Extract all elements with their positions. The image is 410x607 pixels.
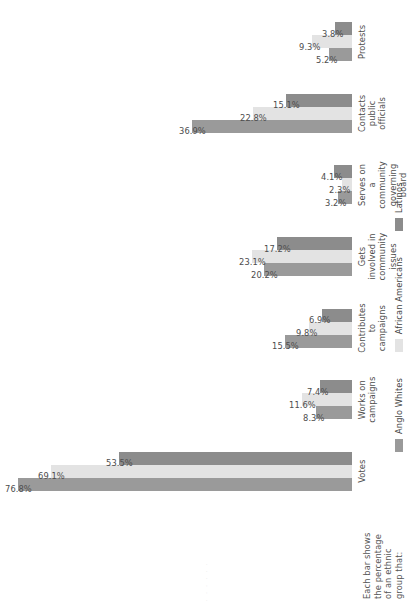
bar-value-label: 4.1%	[321, 172, 342, 182]
chart-caption: Each bar showsthe percentageof an ethnic…	[362, 533, 404, 599]
bar-value-label: 2.3%	[329, 185, 350, 195]
bar[interactable]	[192, 120, 353, 133]
bar[interactable]	[51, 465, 352, 478]
caption-line: group that:	[394, 533, 404, 599]
bar-group-bars: 76.8%69.1%53.5%	[4, 452, 352, 491]
legend-swatch-icon	[395, 339, 403, 352]
bar-wrapper: 4.1%	[4, 165, 352, 178]
bar-wrapper: 23.1%	[4, 250, 352, 263]
chart-figure: Each bar showsthe percentageof an ethnic…	[0, 0, 410, 607]
caption-line: of an ethnic	[383, 533, 393, 599]
bar-group-bars: 20.2%23.1%17.2%	[4, 237, 352, 276]
bar-value-label: 15.5%	[272, 341, 299, 351]
bar-value-label: 9.3%	[299, 42, 320, 52]
bar-wrapper: 53.5%	[4, 452, 352, 465]
bar-wrapper: 15.1%	[4, 94, 352, 107]
bar-group: 36.9%22.8%15.1%Contacts public officials	[4, 78, 352, 150]
bar-wrapper: 2.3%	[4, 178, 352, 191]
bar-value-label: 11.6%	[289, 400, 316, 410]
bar-wrapper: 3.2%	[4, 191, 352, 204]
plot-area: 76.8%69.1%53.5%Votes8.3%11.6%7.4%Works o…	[4, 6, 352, 507]
category-label: Contacts public officials	[357, 95, 388, 132]
bar-group: 15.5%9.8%6.9%Contributes to campaigns	[4, 292, 352, 364]
edge-artifact-text: . . . . . .	[202, 562, 208, 601]
category-label: Gets involved in community issues	[357, 233, 398, 281]
legend-swatch-icon	[395, 439, 403, 452]
bar-value-label: 69.1%	[38, 471, 65, 481]
category-label: Votes	[357, 460, 367, 483]
chart-frame: Each bar showsthe percentageof an ethnic…	[0, 0, 410, 607]
bar-value-label: 53.5%	[106, 458, 133, 468]
legend-label: Anglo Whites	[394, 378, 404, 434]
bar-group-bars: 15.5%9.8%6.9%	[4, 309, 352, 348]
bar-group-bars: 5.2%9.3%3.8%	[4, 22, 352, 61]
bar-group-bars: 8.3%11.6%7.4%	[4, 380, 352, 419]
bar-wrapper: 20.2%	[4, 263, 352, 276]
bar-value-label: 8.3%	[303, 413, 324, 423]
bar-group: 8.3%11.6%7.4%Works on campaigns	[4, 364, 352, 436]
bar[interactable]	[18, 478, 352, 491]
bar-value-label: 3.2%	[325, 198, 346, 208]
bar-value-label: 23.1%	[239, 257, 266, 267]
bar-value-label: 17.2%	[264, 244, 291, 254]
bar[interactable]	[119, 452, 352, 465]
bar-wrapper: 17.2%	[4, 237, 352, 250]
bar-wrapper: 3.8%	[4, 22, 352, 35]
bar-group-bars: 36.9%22.8%15.1%	[4, 94, 352, 133]
bar-value-label: 15.1%	[273, 100, 300, 110]
bar-value-label: 20.2%	[251, 270, 278, 280]
bar-group-bars: 3.2%2.3%4.1%	[4, 165, 352, 204]
bar-value-label: 22.8%	[240, 113, 267, 123]
bar-wrapper: 11.6%	[4, 393, 352, 406]
category-label: Contributes to campaigns	[357, 303, 388, 352]
caption-line: the percentage	[373, 533, 383, 599]
bar-wrapper: 7.4%	[4, 380, 352, 393]
caption-line: Each bar shows	[362, 533, 372, 599]
bar-value-label: 6.9%	[309, 315, 330, 325]
bar-wrapper: 6.9%	[4, 309, 352, 322]
chart-legend: Anglo WhitesAfrican AmericansLatinos	[394, 182, 404, 452]
legend-swatch-icon	[395, 218, 403, 231]
category-label: Protests	[357, 25, 367, 59]
legend-entry[interactable]: Anglo Whites	[394, 378, 404, 452]
category-label: Serves on a community governing board	[357, 161, 408, 209]
bar-value-label: 3.8%	[322, 29, 343, 39]
bar-wrapper: 9.8%	[4, 322, 352, 335]
bar-value-label: 76.8%	[5, 484, 32, 494]
bar-value-label: 5.2%	[316, 55, 337, 65]
bar-group: 5.2%9.3%3.8%Protests	[4, 6, 352, 78]
bar-value-label: 36.9%	[179, 126, 206, 136]
category-label: Works on campaigns	[357, 377, 377, 423]
bar-wrapper: 9.3%	[4, 35, 352, 48]
bar-group: 76.8%69.1%53.5%Votes	[4, 435, 352, 507]
bar-wrapper: 36.9%	[4, 120, 352, 133]
bar[interactable]	[253, 107, 352, 120]
bar-group: 20.2%23.1%17.2%Gets involved in communit…	[4, 221, 352, 293]
bar-group: 3.2%2.3%4.1%Serves on a community govern…	[4, 149, 352, 221]
bar-wrapper: 69.1%	[4, 465, 352, 478]
bar-value-label: 7.4%	[307, 387, 328, 397]
bar-value-label: 9.8%	[296, 328, 317, 338]
